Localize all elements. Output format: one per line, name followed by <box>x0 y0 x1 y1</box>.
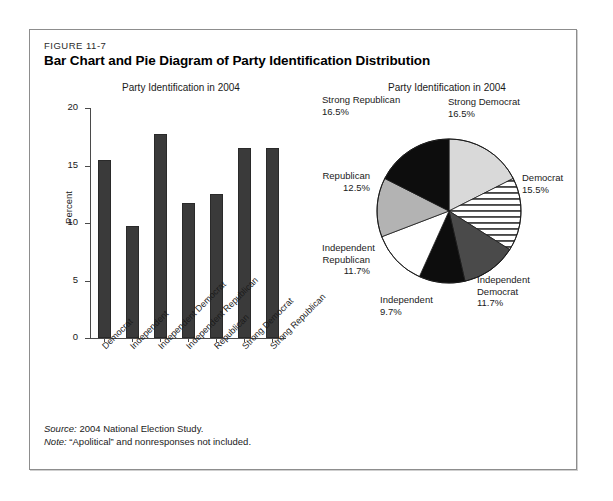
pie-slice-label-name: IndependentDemocrat <box>477 274 530 297</box>
pie-slice-label: Democrat15.5% <box>522 172 563 195</box>
bar <box>238 148 251 338</box>
y-axis-tick-label: 10 <box>67 216 78 227</box>
pie-slice-label-value: 12.5% <box>322 182 370 194</box>
pie-slice-label: IndependentRepublican11.7% <box>322 242 370 277</box>
pie-slice-label-value: 11.7% <box>477 297 530 309</box>
pie-slice-label: Republican12.5% <box>322 170 370 193</box>
y-axis-tick: 0 <box>85 338 90 339</box>
bar-chart-panel: Party Identification in 2004 Percent 051… <box>42 82 320 422</box>
pie-slice-label-value: 9.7% <box>380 306 433 318</box>
pie-slice-label-name: Strong Democrat <box>448 96 520 108</box>
pie-chart-title: Party Identification in 2004 <box>322 82 572 93</box>
pie-slice-label: Independent9.7% <box>380 294 433 317</box>
note-lead: Note: <box>44 436 67 447</box>
pie-slice-label: IndependentDemocrat11.7% <box>477 274 530 309</box>
bar-plot-area: Percent 05101520 <box>90 108 286 338</box>
pie-slice-label-name: Democrat <box>522 172 563 184</box>
y-axis-tick-label: 5 <box>73 274 78 285</box>
figure-note: Note: “Apolitical” and nonresponses not … <box>44 435 251 448</box>
y-axis-line <box>90 108 91 338</box>
pie-slice-label-value: 16.5% <box>322 106 400 118</box>
y-axis-tick-label: 20 <box>67 101 78 112</box>
figure-footer: Source: 2004 National Election Study. No… <box>44 422 251 448</box>
pie-slice-label-value: 15.5% <box>522 184 563 196</box>
figure-title: Bar Chart and Pie Diagram of Party Ident… <box>44 53 430 68</box>
pie-slice-label: Strong Republican16.5% <box>322 94 400 117</box>
pie-diagram <box>374 136 524 286</box>
bar <box>98 160 111 338</box>
y-axis-tick-label: 0 <box>73 331 78 342</box>
y-axis-tick: 20 <box>85 108 90 109</box>
figure-frame: FIGURE 11-7 Bar Chart and Pie Diagram of… <box>29 29 577 470</box>
source-text: 2004 National Election Study. <box>77 423 204 434</box>
y-axis-tick: 15 <box>85 166 90 167</box>
y-axis-tick: 5 <box>85 281 90 282</box>
bar <box>154 134 167 338</box>
pie-slice-label-value: 16.5% <box>448 108 520 120</box>
pie-slice-label-name: IndependentRepublican <box>322 242 370 265</box>
note-text: “Apolitical” and nonresponses not includ… <box>67 436 251 447</box>
source-lead: Source: <box>44 423 77 434</box>
y-axis-tick: 10 <box>85 223 90 224</box>
pie-slice-label-name: Independent <box>380 294 433 306</box>
pie-slice-label-value: 11.7% <box>322 265 370 277</box>
pie-slice-label-name: Strong Republican <box>322 94 400 106</box>
y-axis-tick-label: 15 <box>67 159 78 170</box>
figure-source: Source: 2004 National Election Study. <box>44 422 251 435</box>
pie-slice-label: Strong Democrat16.5% <box>448 96 520 119</box>
pie-slice-label-name: Republican <box>322 170 370 182</box>
figure-number: FIGURE 11-7 <box>44 40 106 51</box>
pie-chart-panel: Party Identification in 2004 Strong Demo… <box>322 82 572 422</box>
bar-chart-title: Party Identification in 2004 <box>42 82 320 93</box>
